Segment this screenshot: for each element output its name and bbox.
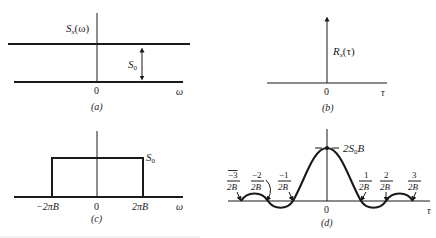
panel-c-bandlimited-psd: S0 −2πB 0 2πB ω (c) — [14, 131, 183, 225]
panel-c-tick-neg: −2πB — [36, 201, 59, 212]
panel-d-peak-label: 2S0B — [343, 142, 365, 156]
panel-b-autocorrelation-impulse: Rx(τ) 0 τ (b) — [267, 19, 387, 114]
panel-d-zero-label-neg1: −1 2B — [278, 170, 292, 199]
panel-b-caption: (b) — [322, 102, 334, 114]
panel-a-x-axis-label: ω — [176, 86, 183, 97]
svg-text:−2: −2 — [252, 170, 262, 180]
panel-d-pointer-arrow-icon — [362, 192, 366, 199]
panel-b-origin-label: 0 — [324, 86, 329, 97]
svg-text:−1: −1 — [279, 170, 289, 180]
panel-c-caption: (c) — [91, 213, 103, 225]
panel-b-x-axis-label: τ — [381, 87, 385, 98]
svg-text:3: 3 — [412, 170, 417, 180]
panel-a-white-noise-psd: Sx(ω) S0 0 ω (a) — [8, 13, 190, 113]
panel-c-tick-zero: 0 — [94, 201, 99, 212]
panel-d-zero-label-pos3: 3 2B — [408, 170, 421, 199]
panel-b-y-label: Rx(τ) — [332, 45, 355, 59]
panel-a-level-label: S0 — [128, 58, 138, 72]
svg-text:2B: 2B — [408, 182, 419, 192]
panel-d-zero-label-pos1: 1 2B — [359, 170, 372, 199]
panel-d-pointer-arrow-icon — [413, 192, 416, 199]
panel-d-caption: (d) — [321, 217, 333, 229]
svg-text:2B: 2B — [278, 182, 289, 192]
figure-canvas: Sx(ω) S0 0 ω (a) Rx(τ) 0 τ (b) S0 −2πB 0… — [0, 0, 436, 238]
panel-a-origin-label: 0 — [94, 85, 99, 96]
panel-d-sinc-autocorrelation: 2S0B −3 2B −2 2B −1 2B 1 2B 2 — [227, 129, 431, 229]
svg-text:−3: −3 — [228, 170, 238, 180]
panel-d-curved-pointer-arrow-icon — [266, 180, 271, 199]
svg-text:2B: 2B — [251, 182, 262, 192]
panel-d-pointer-arrow-icon — [237, 192, 240, 199]
panel-a-caption: (a) — [91, 101, 103, 113]
panel-d-origin-label: 0 — [324, 204, 329, 215]
panel-c-tick-pos: 2πB — [132, 201, 148, 212]
panel-d-x-axis-label: τ — [427, 205, 431, 216]
svg-text:1: 1 — [364, 170, 369, 180]
svg-text:2: 2 — [384, 170, 389, 180]
panel-d-peak-dot — [325, 146, 329, 150]
svg-text:2B: 2B — [380, 182, 391, 192]
panel-a-y-label: Sx(ω) — [66, 22, 90, 36]
panel-d-zero-label-neg3: −3 2B — [227, 170, 240, 199]
panel-c-x-axis-label: ω — [176, 201, 183, 212]
panel-d-pointer-arrow-icon — [289, 192, 292, 199]
svg-text:2B: 2B — [359, 182, 370, 192]
svg-text:2B: 2B — [227, 182, 238, 192]
panel-c-level-label: S0 — [146, 151, 156, 165]
